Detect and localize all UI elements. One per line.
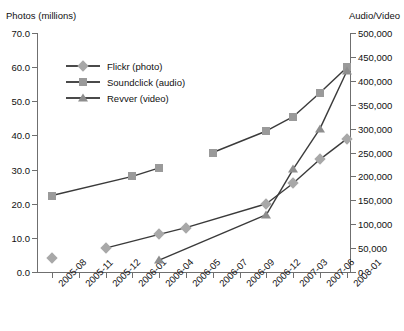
x-axis-tick-label: 2006-04 [163, 281, 171, 289]
x-axis-tick [52, 273, 53, 278]
left-axis-tick [32, 238, 37, 239]
x-axis-tick [159, 273, 160, 278]
x-axis-tick [106, 273, 107, 278]
legend-square-icon [79, 78, 87, 86]
series-line-1 [213, 131, 267, 153]
x-axis-tick-label: 2008-01 [351, 281, 359, 289]
data-point-marker [289, 113, 297, 121]
x-axis-tick-label: 2006-12 [270, 281, 278, 289]
x-axis-tick-label: 2006-09 [244, 281, 252, 289]
left-axis-tick-label: 20.0 [0, 198, 30, 209]
left-axis-tick [32, 101, 37, 102]
series-line-2 [320, 71, 347, 128]
right-axis-tick-label: 100,000 [358, 219, 404, 230]
right-axis-tick-label: 250,000 [358, 147, 404, 158]
x-axis-tick-label: 2007-03 [297, 281, 305, 289]
x-axis-tick [266, 273, 267, 278]
right-axis-tick-label: 450,000 [358, 51, 404, 62]
right-axis-tick [351, 153, 356, 154]
right-axis-tick [351, 81, 356, 82]
right-axis-tick [351, 248, 356, 249]
series-line-0 [320, 139, 347, 159]
legend-marker-icon [66, 92, 100, 104]
x-axis-tick [213, 273, 214, 278]
series-line-0 [106, 234, 160, 248]
data-point-marker [154, 256, 164, 264]
left-axis-line [37, 33, 38, 273]
right-axis-tick-label: 200,000 [358, 171, 404, 182]
x-axis-tick [132, 273, 133, 278]
legend-item: Soundclick (audio) [66, 75, 185, 89]
legend-item-label: Soundclick (audio) [107, 77, 185, 88]
data-point-marker [262, 127, 270, 135]
x-axis-tick [320, 273, 321, 278]
right-axis-tick [351, 33, 356, 34]
data-point-marker [155, 164, 163, 172]
chart-legend: Flickr (photo)Soundclick (audio)Revver (… [66, 59, 185, 107]
right-axis-tick [351, 224, 356, 225]
series-line-2 [266, 169, 293, 214]
chart-container: Photos (millions) Audio/Video 0.010.020.… [0, 0, 404, 331]
data-point-marker [48, 192, 56, 200]
legend-item: Revver (video) [66, 91, 185, 105]
data-point-marker [288, 165, 298, 173]
x-axis-tick [240, 273, 241, 278]
series-line-2 [159, 215, 266, 260]
x-axis-tick-label: 2006-07 [217, 281, 225, 289]
left-axis-tick-label: 40.0 [0, 130, 30, 141]
x-axis-tick-label: 2005-08 [56, 281, 64, 289]
left-axis-tick-label: 60.0 [0, 62, 30, 73]
data-point-marker [261, 210, 271, 218]
legend-item-label: Flickr (photo) [107, 61, 162, 72]
right-axis-tick [351, 129, 356, 130]
legend-marker-icon [66, 60, 100, 72]
legend-item: Flickr (photo) [66, 59, 185, 73]
data-point-marker [209, 149, 217, 157]
data-point-marker [46, 253, 57, 264]
data-point-marker [100, 242, 111, 253]
left-axis-tick [32, 204, 37, 205]
legend-item-label: Revver (video) [107, 93, 169, 104]
legend-triangle-icon [78, 94, 88, 102]
x-axis-tick [186, 273, 187, 278]
x-axis-tick [79, 273, 80, 278]
right-axis-tick [351, 176, 356, 177]
left-axis-tick [32, 272, 37, 273]
data-point-marker [288, 178, 299, 189]
right-axis-title: Audio/Video [349, 10, 400, 21]
left-axis-tick-label: 10.0 [0, 232, 30, 243]
left-axis-tick [32, 135, 37, 136]
data-point-marker [180, 222, 191, 233]
data-point-marker [128, 172, 136, 180]
data-point-marker [154, 229, 165, 240]
left-axis-title: Photos (millions) [6, 10, 76, 21]
data-point-marker [314, 154, 325, 165]
x-axis-tick [293, 273, 294, 278]
legend-diamond-icon [77, 60, 88, 71]
left-axis-tick [32, 170, 37, 171]
x-axis-tick-label: 2006-01 [136, 281, 144, 289]
data-point-marker [342, 67, 352, 75]
left-axis-tick [32, 67, 37, 68]
right-axis-tick-label: 300,000 [358, 123, 404, 134]
series-line-0 [186, 204, 266, 228]
left-axis-tick-label: 50.0 [0, 96, 30, 107]
data-point-marker [261, 198, 272, 209]
right-axis-tick [351, 272, 356, 273]
data-point-marker [315, 124, 325, 132]
x-axis-tick-label: 2005-12 [110, 281, 118, 289]
x-axis-tick-label: 2005-11 [83, 281, 91, 289]
right-axis-tick [351, 105, 356, 106]
legend-marker-icon [66, 76, 100, 88]
right-axis-tick-label: 500,000 [358, 28, 404, 39]
left-axis-tick-label: 30.0 [0, 164, 30, 175]
x-axis-tick [347, 273, 348, 278]
left-axis-tick-label: 0.0 [0, 267, 30, 278]
right-axis-tick [351, 200, 356, 201]
right-axis-tick [351, 57, 356, 58]
right-axis-tick-label: 150,000 [358, 195, 404, 206]
series-line-0 [266, 183, 293, 203]
right-axis-tick-label: 50,000 [358, 243, 404, 254]
series-line-2 [293, 129, 320, 170]
data-point-marker [316, 89, 324, 97]
